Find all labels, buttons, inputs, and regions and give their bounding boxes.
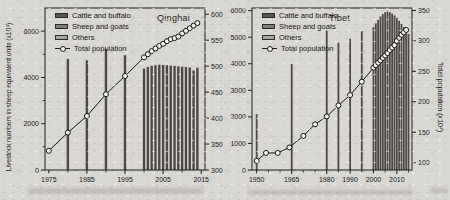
sheep-swatch-icon bbox=[262, 24, 275, 29]
line-marker-icon bbox=[55, 48, 70, 49]
svg-text:150: 150 bbox=[418, 129, 430, 136]
svg-text:0: 0 bbox=[35, 167, 39, 174]
sheep-swatch-icon bbox=[55, 24, 68, 29]
svg-text:4000: 4000 bbox=[23, 74, 39, 81]
svg-text:6000: 6000 bbox=[230, 7, 246, 14]
svg-text:1985: 1985 bbox=[79, 176, 95, 183]
cattle-swatch-icon bbox=[55, 13, 68, 18]
svg-text:300: 300 bbox=[211, 167, 223, 174]
svg-text:2000: 2000 bbox=[230, 113, 246, 120]
legend-item-cattle: Cattle and buffalo bbox=[262, 11, 338, 20]
svg-text:400: 400 bbox=[211, 115, 223, 122]
svg-text:0: 0 bbox=[242, 167, 246, 174]
legend-label: Cattle and buffalo bbox=[72, 11, 131, 20]
svg-text:200: 200 bbox=[418, 98, 430, 105]
legend-item-others: Others bbox=[55, 33, 131, 42]
legend-label: Total population bbox=[281, 44, 334, 53]
legend-tibet: Cattle and buffalo Sheep and goats Other… bbox=[262, 11, 338, 53]
scan-artifact bbox=[248, 190, 413, 195]
right-axis-title: Total population (x10⁴) bbox=[436, 62, 445, 132]
scan-artifact bbox=[28, 188, 203, 194]
svg-text:450: 450 bbox=[211, 89, 223, 96]
svg-text:100: 100 bbox=[418, 159, 430, 166]
legend-item-sheep: Sheep and goats bbox=[55, 22, 131, 31]
svg-text:2000: 2000 bbox=[23, 120, 39, 127]
cattle-swatch-icon bbox=[262, 13, 275, 18]
legend-item-cattle: Cattle and buffalo bbox=[55, 11, 131, 20]
svg-text:1995: 1995 bbox=[117, 176, 133, 183]
legend-qinghai: Cattle and buffalo Sheep and goats Other… bbox=[55, 11, 131, 53]
svg-text:1975: 1975 bbox=[41, 176, 57, 183]
svg-text:1980: 1980 bbox=[319, 176, 335, 183]
line-marker-icon bbox=[262, 48, 277, 49]
legend-label: Others bbox=[72, 33, 95, 42]
svg-text:3000: 3000 bbox=[230, 87, 246, 94]
svg-text:1000: 1000 bbox=[230, 140, 246, 147]
left-axis-title: Livestock numbers in sheep equivalent un… bbox=[5, 23, 12, 171]
svg-text:1990: 1990 bbox=[342, 176, 358, 183]
legend-item-others: Others bbox=[262, 33, 338, 42]
others-swatch-icon bbox=[55, 35, 68, 40]
svg-text:2015: 2015 bbox=[193, 176, 209, 183]
svg-text:6000: 6000 bbox=[23, 28, 39, 35]
legend-item-sheep: Sheep and goats bbox=[262, 22, 338, 31]
svg-text:350: 350 bbox=[418, 7, 430, 14]
legend-label: Cattle and buffalo bbox=[279, 11, 338, 20]
svg-text:2005: 2005 bbox=[155, 176, 171, 183]
legend-label: Sheep and goats bbox=[279, 22, 336, 31]
others-swatch-icon bbox=[262, 35, 275, 40]
svg-text:300: 300 bbox=[418, 37, 430, 44]
svg-text:2010: 2010 bbox=[389, 176, 405, 183]
svg-text:550: 550 bbox=[211, 37, 223, 44]
legend-label: Others bbox=[279, 33, 302, 42]
figure-livestock-population: Livestock numbers in sheep equivalent un… bbox=[0, 0, 450, 200]
svg-text:1965: 1965 bbox=[284, 176, 300, 183]
svg-text:350: 350 bbox=[211, 141, 223, 148]
legend-label: Total population bbox=[74, 44, 127, 53]
svg-text:2000: 2000 bbox=[366, 176, 382, 183]
legend-item-population: Total population bbox=[262, 44, 338, 53]
svg-text:1950: 1950 bbox=[249, 176, 265, 183]
legend-item-population: Total population bbox=[55, 44, 131, 53]
svg-text:600: 600 bbox=[211, 11, 223, 18]
scan-artifact bbox=[430, 188, 448, 193]
panel-title-qinghai: Qinghai bbox=[157, 13, 190, 23]
svg-text:4000: 4000 bbox=[230, 60, 246, 67]
legend-label: Sheep and goats bbox=[72, 22, 129, 31]
svg-text:5000: 5000 bbox=[230, 34, 246, 41]
svg-text:250: 250 bbox=[418, 68, 430, 75]
svg-text:500: 500 bbox=[211, 63, 223, 70]
